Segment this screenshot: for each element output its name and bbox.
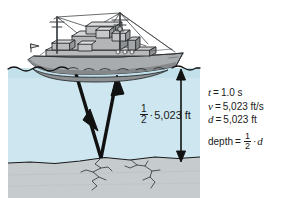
- depth-formula-denominator: 2: [244, 142, 251, 151]
- depth-callout-denominator: 2: [140, 115, 148, 125]
- distance-equals: =: [214, 114, 224, 125]
- legend-row-time: t=1.0 s: [208, 86, 294, 100]
- depth-formula-equals: =: [233, 136, 243, 147]
- depth-callout-fraction: 1 2: [140, 104, 148, 125]
- legend-row-velocity: v=5,023 ft/s: [208, 100, 294, 114]
- depth-formula-variable: d: [257, 135, 263, 147]
- distance-symbol: d: [208, 113, 214, 125]
- given-values-legend: t=1.0 s v=5,023 ft/s d=5,023 ft depth= 1…: [208, 86, 294, 151]
- time-value: 1.0 s: [221, 87, 243, 98]
- distance-value: 5,023 ft: [223, 114, 256, 125]
- time-equals: =: [211, 87, 221, 98]
- velocity-equals: =: [213, 101, 223, 112]
- depth-formula-fraction: 1 2: [244, 132, 251, 151]
- depth-formula-label: depth: [208, 136, 233, 147]
- sonar-depth-figure: 1 2 ·5,023 ft t=1.0 s v=5,023 ft/s d=5,0…: [0, 0, 294, 198]
- legend-row-depth-formula: depth= 1 2 ·d: [208, 132, 294, 151]
- legend-row-distance: d=5,023 ft: [208, 113, 294, 127]
- depth-callout-label: 1 2 ·5,023 ft: [139, 104, 191, 125]
- ocean-floor: [8, 157, 200, 198]
- depth-callout-value: 5,023 ft: [154, 109, 191, 121]
- velocity-value: 5,023 ft/s: [223, 101, 264, 112]
